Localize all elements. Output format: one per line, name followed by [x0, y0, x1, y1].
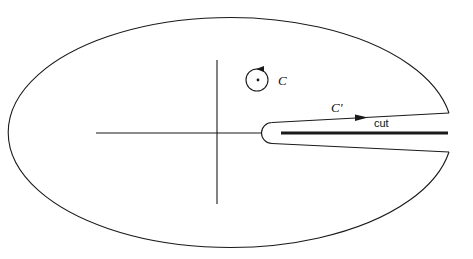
label-c: C: [278, 74, 287, 87]
contour-diagram: [0, 0, 473, 259]
arrow-icon: [256, 66, 264, 72]
label-cut: cut: [374, 118, 389, 129]
arrow-icon: [355, 115, 368, 122]
contour-c: [246, 66, 268, 91]
label-c-prime: C': [331, 101, 342, 114]
pole-point: [257, 79, 260, 82]
